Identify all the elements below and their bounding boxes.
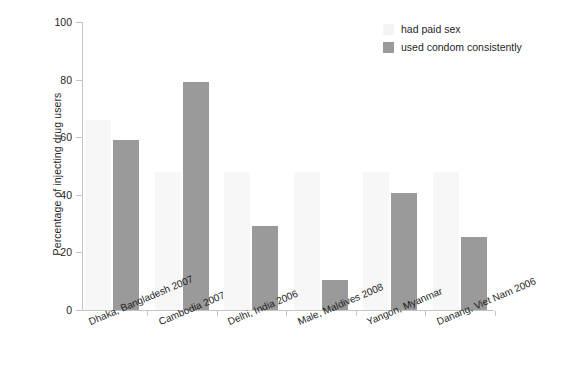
legend-swatch-icon-used-condom-consistently <box>383 42 394 53</box>
y-tick-label: 80 <box>38 75 72 85</box>
plot-area <box>83 22 494 310</box>
x-tick-mark <box>495 311 496 316</box>
x-tick-mark <box>356 311 357 316</box>
legend-label-had-paid-sex: had paid sex <box>401 23 461 35</box>
bar-had-paid-sex <box>294 172 320 310</box>
bar-had-paid-sex <box>224 172 250 310</box>
y-tick-label: 100 <box>38 17 72 27</box>
legend-item-used-condom-consistently: used condom consistently <box>383 38 522 56</box>
x-tick-mark <box>147 311 148 316</box>
bar-had-paid-sex <box>85 120 111 310</box>
legend-swatch-icon-had-paid-sex <box>383 24 394 35</box>
y-axis-title: Percentage of injecting drug users <box>51 24 63 324</box>
bar-used-condom-consistently <box>113 140 139 310</box>
x-axis-line <box>82 310 494 311</box>
x-tick-mark <box>217 311 218 316</box>
x-tick-mark <box>425 311 426 316</box>
y-tick-label: 0 <box>38 305 72 315</box>
bar-chart: Percentage of injecting drug users 02040… <box>0 0 573 383</box>
legend-item-had-paid-sex: had paid sex <box>383 20 522 38</box>
legend-label-used-condom-consistently: used condom consistently <box>401 41 522 53</box>
x-tick-mark <box>286 311 287 316</box>
legend: had paid sex used condom consistently <box>383 20 522 56</box>
y-tick-label: 40 <box>38 190 72 200</box>
y-tick-label: 60 <box>38 132 72 142</box>
bar-used-condom-consistently <box>391 193 417 310</box>
y-tick-label: 20 <box>38 247 72 257</box>
